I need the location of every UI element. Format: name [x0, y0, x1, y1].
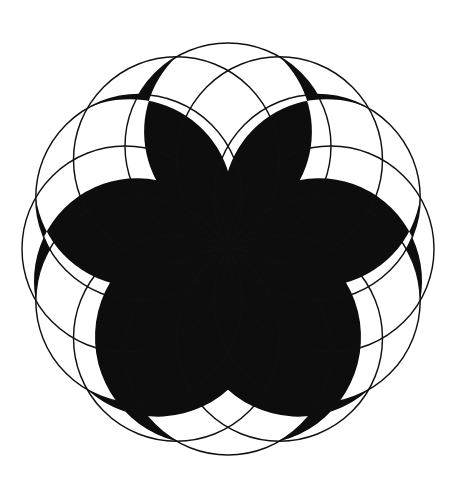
rosette-drawing: Rosette of twelve congruent circles thro…: [0, 0, 457, 478]
rosette-figure: Rosette of twelve congruent circles thro…: [0, 0, 457, 478]
